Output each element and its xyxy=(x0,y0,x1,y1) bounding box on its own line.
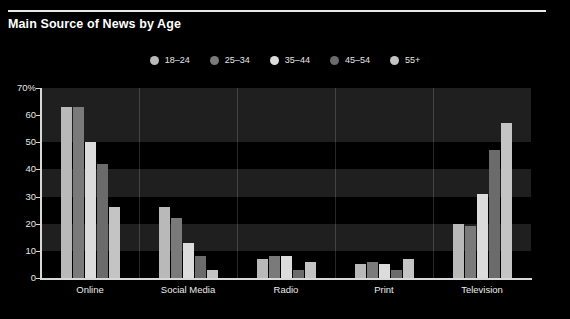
y-tick-label: 50 xyxy=(2,136,36,147)
bars-layer xyxy=(41,88,531,278)
bar[interactable] xyxy=(85,142,96,278)
bar[interactable] xyxy=(195,256,206,278)
x-tick-label: Social Media xyxy=(139,284,237,295)
chart-root: Main Source of News by Age 18–2425–3435–… xyxy=(0,0,570,319)
y-tick-mark xyxy=(36,197,41,198)
bar[interactable] xyxy=(379,264,390,278)
legend-item[interactable]: 55+ xyxy=(390,55,420,65)
bar-group xyxy=(139,88,237,278)
y-tick-label: 30 xyxy=(2,191,36,202)
bar-group xyxy=(237,88,335,278)
y-tick-mark xyxy=(36,224,41,225)
legend-swatch-icon xyxy=(210,56,219,65)
x-axis-labels: OnlineSocial MediaRadioPrintTelevision xyxy=(41,284,531,295)
bar[interactable] xyxy=(355,264,366,278)
bar[interactable] xyxy=(171,218,182,278)
bar[interactable] xyxy=(391,270,402,278)
legend-label: 18–24 xyxy=(165,55,190,65)
legend-swatch-icon xyxy=(330,56,339,65)
y-tick-mark xyxy=(36,88,41,89)
y-tick-label: 20 xyxy=(2,218,36,229)
x-tick-label: Radio xyxy=(237,284,335,295)
legend-swatch-icon xyxy=(150,56,159,65)
bar[interactable] xyxy=(207,270,218,278)
bar[interactable] xyxy=(501,123,512,278)
bar-group xyxy=(335,88,433,278)
y-tick-label: 70% xyxy=(2,82,36,93)
legend-swatch-icon xyxy=(390,56,399,65)
x-tick-label: Print xyxy=(335,284,433,295)
bar[interactable] xyxy=(281,256,292,278)
y-tick-label: 10 xyxy=(2,245,36,256)
legend-label: 25–34 xyxy=(225,55,250,65)
chart-legend: 18–2425–3435–4445–5455+ xyxy=(0,55,570,65)
bar[interactable] xyxy=(109,207,120,278)
x-tick-label: Online xyxy=(41,284,139,295)
bar[interactable] xyxy=(293,270,304,278)
legend-item[interactable]: 25–34 xyxy=(210,55,250,65)
y-tick-label: 0 xyxy=(2,272,36,283)
y-tick-label: 60 xyxy=(2,109,36,120)
bar[interactable] xyxy=(453,224,464,278)
bar[interactable] xyxy=(183,243,194,278)
y-tick-label: 40 xyxy=(2,163,36,174)
bar[interactable] xyxy=(257,259,268,278)
bar[interactable] xyxy=(305,262,316,278)
legend-label: 55+ xyxy=(405,55,420,65)
bar[interactable] xyxy=(465,226,476,278)
y-tick-mark xyxy=(36,251,41,252)
bar[interactable] xyxy=(489,150,500,278)
bar[interactable] xyxy=(367,262,378,278)
x-axis-line xyxy=(40,278,532,280)
bar[interactable] xyxy=(61,107,72,278)
y-tick-mark xyxy=(36,278,41,279)
bar[interactable] xyxy=(159,207,170,278)
y-tick-mark xyxy=(36,169,41,170)
y-tick-mark xyxy=(36,115,41,116)
bar[interactable] xyxy=(97,164,108,278)
plot-area xyxy=(41,88,531,278)
bar[interactable] xyxy=(73,107,84,278)
title-rule xyxy=(8,10,546,12)
legend-label: 45–54 xyxy=(345,55,370,65)
x-tick-label: Television xyxy=(433,284,531,295)
bar[interactable] xyxy=(477,194,488,278)
bar-group xyxy=(433,88,531,278)
bar[interactable] xyxy=(403,259,414,278)
legend-item[interactable]: 45–54 xyxy=(330,55,370,65)
y-axis-labels: 010203040506070% xyxy=(0,0,36,319)
legend-swatch-icon xyxy=(270,56,279,65)
legend-item[interactable]: 35–44 xyxy=(270,55,310,65)
bar-group xyxy=(41,88,139,278)
y-tick-mark xyxy=(36,142,41,143)
legend-item[interactable]: 18–24 xyxy=(150,55,190,65)
bar[interactable] xyxy=(269,256,280,278)
legend-label: 35–44 xyxy=(285,55,310,65)
